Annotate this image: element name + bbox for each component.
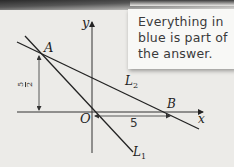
callout-line-2: blue is part of [138,30,234,46]
fraction-numerator: 5 [17,82,25,87]
line-l2-label: L2 [125,74,138,90]
callout-line-3: the answer. [138,46,234,62]
line-l1-subscript: 1 [141,152,146,161]
callout-line-1: Everything in [138,14,234,30]
callout-note: Everything in blue is part of the answer… [128,9,234,69]
line-l2-name: L [125,74,133,88]
origin-label: O [80,111,91,126]
point-b-label: B [167,97,176,111]
y-axis-label: y [82,15,89,30]
line-l1-label: L1 [133,145,146,161]
line-l1-name: L [133,145,141,159]
fraction-denominator: 2 [25,82,34,87]
vertical-dimension-label: 5 2 [17,82,34,87]
horizontal-dimension-label: 5 [130,116,138,130]
line-l2-subscript: 2 [133,81,138,90]
x-axis-label: x [198,112,205,126]
point-a-label: A [44,40,53,55]
